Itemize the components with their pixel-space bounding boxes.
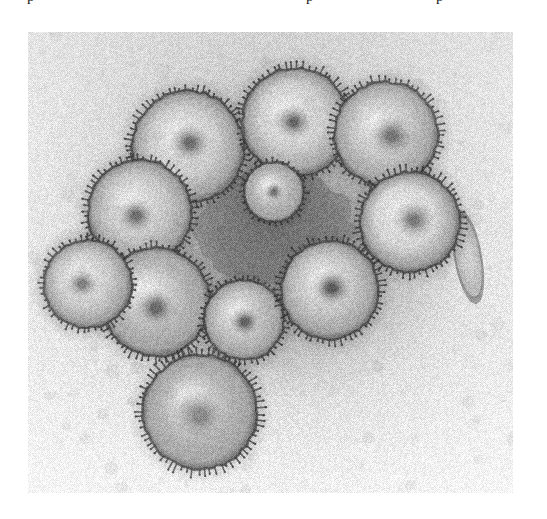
clipped-glyph: p — [306, 0, 314, 3]
clipped-text-line: ppp — [0, 0, 547, 10]
clipped-glyph: p — [436, 0, 444, 3]
micrograph-image — [28, 32, 513, 493]
clipped-glyph: p — [27, 0, 35, 3]
electron-micrograph-figure — [28, 32, 513, 493]
